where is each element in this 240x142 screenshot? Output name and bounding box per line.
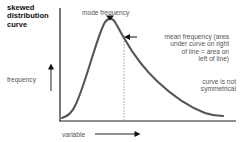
x-axis-label: variable (62, 131, 85, 138)
skewed-distribution-graph (0, 0, 240, 142)
variable-arrow-right-icon (135, 131, 141, 137)
y-axis-label: frequency (7, 76, 36, 83)
frequency-arrow-up-icon (48, 64, 54, 70)
asymmetry-note: curve is not symmetrical (168, 78, 236, 93)
mean-frequency-label: mean frequency (area under curve on righ… (137, 33, 229, 63)
mode-frequency-label: mode frequency (82, 9, 129, 16)
